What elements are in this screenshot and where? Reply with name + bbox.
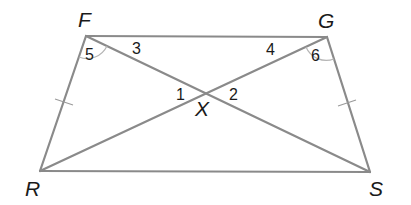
diagonal-GR bbox=[40, 37, 327, 171]
vertex-label-S: S bbox=[369, 177, 383, 200]
angle-label-5: 5 bbox=[85, 46, 94, 63]
vertex-label-R: R bbox=[25, 177, 40, 200]
angle-label-1: 1 bbox=[176, 86, 185, 103]
segment-GS bbox=[327, 37, 370, 172]
vertex-label-X: X bbox=[194, 97, 210, 120]
diagonal-FS bbox=[86, 36, 370, 172]
trapezoid-diagram: F G R S X 5 3 4 6 1 2 bbox=[0, 0, 411, 205]
vertex-label-G: G bbox=[318, 9, 334, 32]
angle-label-3: 3 bbox=[132, 40, 141, 57]
segment-RF bbox=[40, 36, 86, 171]
segment-SR bbox=[40, 171, 370, 172]
angle-label-2: 2 bbox=[229, 86, 238, 103]
angle-label-6: 6 bbox=[311, 47, 320, 64]
angle-label-4: 4 bbox=[266, 41, 275, 58]
vertex-label-F: F bbox=[78, 8, 92, 31]
segment-FG bbox=[86, 36, 327, 37]
